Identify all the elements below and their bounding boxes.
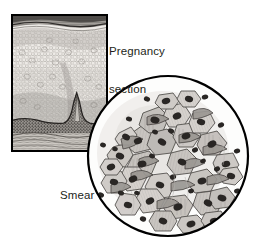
smear-label: Smear [60,189,94,202]
pregnancy-section-label: Pregnancy section [109,20,165,120]
figure-root: Pregnancy section Smear [0,0,254,249]
pregnancy-section-label-line2: section [109,83,165,96]
pregnancy-section-label-line1: Pregnancy [109,45,165,58]
